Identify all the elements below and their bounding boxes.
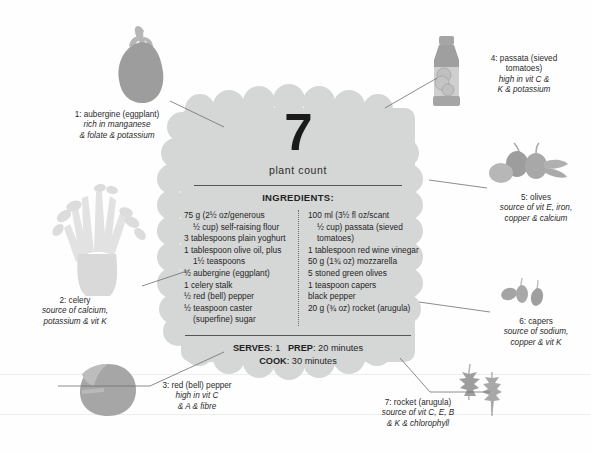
leader-line-7 — [400, 358, 430, 392]
leader-line-6 — [419, 302, 490, 312]
leader-line-4 — [385, 78, 437, 108]
leader-line-2 — [142, 270, 190, 286]
leader-line-1 — [170, 101, 224, 127]
leader-line-3b — [150, 352, 224, 386]
leader-line-5 — [429, 180, 487, 188]
recipe-card-page: 7 plant count INGREDIENTS: 75 g (2½ oz/g… — [0, 0, 591, 454]
leader-lines — [0, 0, 591, 454]
